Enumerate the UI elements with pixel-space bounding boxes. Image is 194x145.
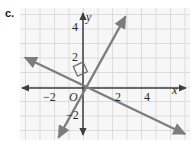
xtick-label-2: 2 [115,91,121,103]
lines-layer [20,8,190,140]
origin-label: O [69,91,78,103]
xtick-label-4: 4 [144,91,150,103]
ytick-label-neg2: −2 [66,109,79,121]
figure-container: c. [0,0,194,145]
xtick-label-neg2: −2 [43,91,56,103]
axes [22,13,186,135]
x-axis-label: x [172,84,177,96]
right-angle-marker [73,62,87,76]
y-axis-label: y [86,11,91,23]
coordinate-plane: y x O −2 2 4 4 2 −2 [20,8,190,140]
item-label: c. [5,7,14,19]
ytick-label-2: 2 [72,51,78,63]
ytick-label-4: 4 [72,21,78,33]
